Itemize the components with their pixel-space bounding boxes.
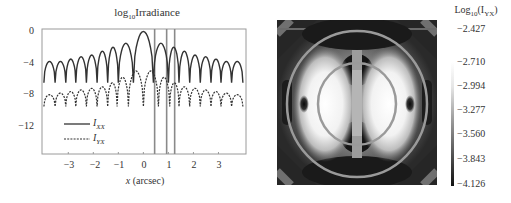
colorbar-title: Log10(IYX) (441, 4, 511, 18)
ytick-neg4: −4 (4, 57, 34, 68)
xtick-0: 0 (134, 159, 154, 170)
xtick-1: 1 (159, 159, 179, 170)
xtick-neg1: −1 (109, 159, 129, 170)
curve-iyx (44, 71, 243, 107)
legend-label-iyx: IYX (93, 132, 105, 146)
ytick-neg12: −12 (4, 120, 34, 131)
ytick-neg8: −8 (4, 88, 34, 99)
xtick-neg2: −2 (85, 159, 105, 170)
colorbar-tick-3: −3.277 (457, 104, 507, 115)
colorbar-tick-1: −2.710 (457, 56, 507, 67)
colorbar-tick-6: −4.126 (457, 178, 507, 189)
x-axis-label: x (arcsec) (100, 175, 190, 186)
colorbar-tick-0: −2.427 (457, 23, 507, 34)
colorbar (451, 62, 454, 186)
ytick-0: 0 (4, 25, 34, 36)
plot-title: log10Irradiance (92, 6, 202, 21)
curve-ixx (44, 31, 243, 82)
colorbar-tick-2: −2.994 (457, 80, 507, 91)
colorbar-tick-4: −3.560 (457, 128, 507, 139)
legend-label-ixx: IXX (93, 117, 105, 131)
xtick-neg3: −3 (59, 159, 79, 170)
xtick-3: 3 (209, 159, 229, 170)
xtick-2: 2 (184, 159, 204, 170)
colorbar-tick-5: −3.843 (457, 153, 507, 164)
heatmap (277, 20, 437, 185)
